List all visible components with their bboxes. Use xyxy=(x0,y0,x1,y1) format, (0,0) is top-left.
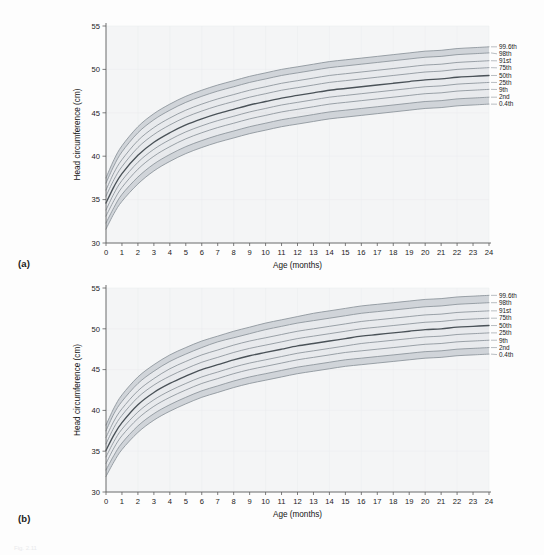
x-tick-label: 16 xyxy=(357,497,365,506)
x-tick-label: 13 xyxy=(309,248,317,257)
x-tick-label: 7 xyxy=(216,248,220,257)
legend-label-98th: 98th xyxy=(499,299,512,306)
legend-label-2nd: 2nd xyxy=(499,93,510,100)
x-tick-label: 2 xyxy=(136,497,140,506)
legend-label-50th: 50th xyxy=(499,72,512,79)
y-tick-label: 45 xyxy=(92,109,100,118)
y-tick-label: 50 xyxy=(92,325,100,334)
x-tick-label: 10 xyxy=(261,497,269,506)
x-tick-label: 15 xyxy=(341,497,349,506)
legend-label-9th: 9th xyxy=(499,86,508,93)
y-tick-label: 30 xyxy=(92,239,100,248)
x-tick-label: 15 xyxy=(341,248,349,257)
x-tick-label: 22 xyxy=(453,248,461,257)
x-tick-label: 12 xyxy=(293,248,301,257)
y-tick-label: 50 xyxy=(92,65,100,74)
legend-label-0-4th: 0.4th xyxy=(499,351,514,358)
x-tick-label: 20 xyxy=(421,248,429,257)
x-tick-label: 8 xyxy=(232,497,236,506)
x-tick-label: 21 xyxy=(437,248,445,257)
x-tick-label: 4 xyxy=(168,497,172,506)
legend-label-99-6th: 99.6th xyxy=(499,292,517,299)
x-axis-title: Age (months) xyxy=(273,510,322,519)
x-tick-label: 23 xyxy=(469,248,477,257)
x-tick-label: 5 xyxy=(184,497,188,506)
x-tick-label: 8 xyxy=(232,248,236,257)
x-tick-label: 13 xyxy=(309,497,317,506)
y-axis-title: Head circumference (cm) xyxy=(73,344,82,436)
panel-label-a: (a) xyxy=(18,258,30,269)
x-tick-label: 5 xyxy=(184,248,188,257)
legend-leader-line xyxy=(491,53,497,54)
legend: 99.6th98th91st75th50th25th9th2nd0.4th xyxy=(491,43,517,107)
x-tick-label: 7 xyxy=(216,497,220,506)
legend-label-50th: 50th xyxy=(499,322,512,329)
legend-label-75th: 75th xyxy=(499,314,512,321)
x-tick-label: 6 xyxy=(200,497,204,506)
legend-label-91st: 91st xyxy=(499,57,511,64)
x-tick-label: 16 xyxy=(357,248,365,257)
x-tick-label: 24 xyxy=(485,497,493,506)
x-tick-label: 23 xyxy=(469,497,477,506)
x-tick-label: 11 xyxy=(278,497,286,506)
x-tick-label: 14 xyxy=(325,248,333,257)
legend-label-98th: 98th xyxy=(499,50,512,57)
head-circumference-chart-a: 3035404550550123456789101112131415161718… xyxy=(0,0,544,278)
x-tick-label: 18 xyxy=(389,248,397,257)
y-tick-label: 45 xyxy=(92,365,100,374)
x-tick-label: 3 xyxy=(152,248,156,257)
x-tick-label: 21 xyxy=(437,497,445,506)
figure-caption: Fig. 2.11 xyxy=(14,545,37,551)
growth-chart-panel-a: 3035404550550123456789101112131415161718… xyxy=(0,0,544,278)
y-tick-label: 40 xyxy=(92,152,100,161)
x-tick-label: 4 xyxy=(168,248,172,257)
x-tick-label: 3 xyxy=(152,497,156,506)
x-tick-label: 14 xyxy=(325,497,333,506)
x-tick-label: 0 xyxy=(104,248,108,257)
x-tick-label: 6 xyxy=(200,248,204,257)
y-tick-label: 40 xyxy=(92,406,100,415)
y-tick-label: 35 xyxy=(92,195,100,204)
x-tick-label: 19 xyxy=(405,248,413,257)
legend-label-0-4th: 0.4th xyxy=(499,100,514,107)
x-tick-label: 1 xyxy=(120,248,124,257)
y-tick-label: 55 xyxy=(92,284,100,293)
x-tick-label: 18 xyxy=(389,497,397,506)
y-axis-title: Head circumference (cm) xyxy=(73,88,82,180)
x-tick-label: 17 xyxy=(373,248,381,257)
panel-label-b: (b) xyxy=(18,513,31,524)
x-tick-label: 9 xyxy=(248,248,252,257)
x-tick-label: 0 xyxy=(104,497,108,506)
head-circumference-chart-b: 3035404550550123456789101112131415161718… xyxy=(0,278,544,538)
legend-label-91st: 91st xyxy=(499,307,511,314)
x-tick-label: 19 xyxy=(405,497,413,506)
x-tick-label: 17 xyxy=(373,497,381,506)
legend-label-25th: 25th xyxy=(499,329,512,336)
x-axis-title: Age (months) xyxy=(273,261,322,270)
legend: 99.6th98th91st75th50th25th9th2nd0.4th xyxy=(491,292,517,358)
legend-label-9th: 9th xyxy=(499,337,508,344)
x-tick-label: 9 xyxy=(248,497,252,506)
x-tick-label: 2 xyxy=(136,248,140,257)
x-tick-label: 22 xyxy=(453,497,461,506)
x-tick-label: 1 xyxy=(120,497,124,506)
legend-label-99-6th: 99.6th xyxy=(499,43,517,50)
y-tick-label: 35 xyxy=(92,447,100,456)
legend-label-2nd: 2nd xyxy=(499,344,510,351)
x-tick-label: 24 xyxy=(485,248,493,257)
legend-label-25th: 25th xyxy=(499,79,512,86)
x-tick-label: 11 xyxy=(278,248,286,257)
y-tick-label: 30 xyxy=(92,488,100,497)
x-tick-label: 10 xyxy=(261,248,269,257)
growth-chart-panel-b: 3035404550550123456789101112131415161718… xyxy=(0,278,544,538)
x-tick-label: 20 xyxy=(421,497,429,506)
x-tick-label: 12 xyxy=(293,497,301,506)
legend-label-75th: 75th xyxy=(499,64,512,71)
y-tick-label: 55 xyxy=(92,22,100,31)
